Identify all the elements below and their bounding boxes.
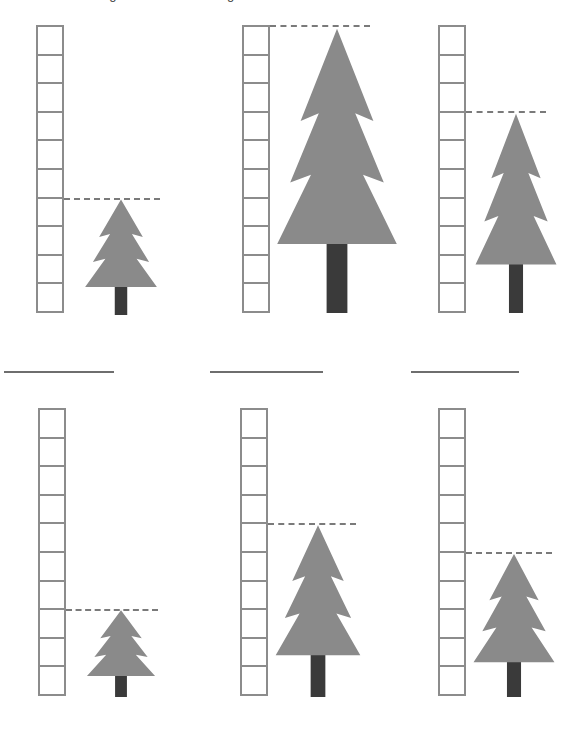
- ruler-unit: [440, 667, 464, 694]
- ruler-unit: [440, 141, 464, 170]
- ruler-unit: [440, 496, 464, 525]
- ruler-unit: [440, 170, 464, 199]
- problem-row-1: [0, 0, 583, 355]
- fir-tree-shape: [472, 111, 560, 313]
- fir-tree-shape: [272, 25, 402, 313]
- ruler-unit: [440, 610, 464, 639]
- ruler-unit: [40, 667, 64, 694]
- ruler-unit: [440, 524, 464, 553]
- fir-tree-icon: [470, 552, 558, 697]
- ruler-unit: [244, 113, 268, 142]
- ruler-unit: [38, 199, 62, 228]
- ruler-unit: [40, 524, 64, 553]
- ruler-unit: [242, 639, 266, 668]
- ruler-unit: [38, 27, 62, 56]
- ruler-unit: [244, 256, 268, 285]
- unit-ruler-icon: [438, 408, 466, 696]
- ruler-unit: [244, 284, 268, 311]
- ruler-unit: [40, 610, 64, 639]
- ruler-unit: [440, 582, 464, 611]
- fir-tree-shape: [272, 523, 364, 697]
- tree-foliage: [474, 554, 555, 662]
- fir-tree-shape: [470, 552, 558, 697]
- ruler-unit: [242, 582, 266, 611]
- ruler-unit: [38, 170, 62, 199]
- ruler-unit: [242, 410, 266, 439]
- ruler-unit: [40, 553, 64, 582]
- ruler-unit: [244, 141, 268, 170]
- ruler-unit: [440, 439, 464, 468]
- tree-foliage: [87, 610, 155, 676]
- ruler-unit: [242, 496, 266, 525]
- ruler-unit: [440, 256, 464, 285]
- tree-trunk: [115, 282, 127, 315]
- fir-tree-icon: [272, 523, 364, 697]
- tree-foliage: [276, 525, 361, 655]
- ruler-unit: [244, 84, 268, 113]
- ruler-unit: [242, 610, 266, 639]
- answer-line-2[interactable]: [210, 371, 323, 373]
- fir-tree-shape: [82, 198, 160, 315]
- ruler-unit: [242, 439, 266, 468]
- ruler-unit: [244, 27, 268, 56]
- ruler-unit: [440, 227, 464, 256]
- ruler-unit: [38, 227, 62, 256]
- ruler-unit: [40, 639, 64, 668]
- ruler-unit: [440, 84, 464, 113]
- unit-ruler-icon: [240, 408, 268, 696]
- ruler-unit: [242, 667, 266, 694]
- unit-ruler-icon: [36, 25, 64, 313]
- worksheet-page: Measure the height of each tree using th…: [0, 0, 583, 739]
- tree-trunk: [507, 656, 521, 697]
- ruler-unit: [38, 113, 62, 142]
- ruler-unit: [38, 284, 62, 311]
- tree-trunk: [311, 648, 326, 697]
- ruler-unit: [440, 639, 464, 668]
- ruler-unit: [244, 199, 268, 228]
- unit-ruler-icon: [38, 408, 66, 696]
- ruler-unit: [244, 170, 268, 199]
- tree-trunk: [115, 672, 127, 697]
- ruler-unit: [40, 496, 64, 525]
- ruler-unit: [38, 141, 62, 170]
- tree-trunk: [327, 232, 348, 313]
- tree-foliage: [277, 29, 397, 244]
- answer-line-1[interactable]: [4, 371, 114, 373]
- ruler-unit: [440, 284, 464, 311]
- fir-tree-shape: [84, 609, 158, 697]
- ruler-unit: [440, 467, 464, 496]
- ruler-unit: [38, 256, 62, 285]
- ruler-unit: [38, 56, 62, 85]
- fir-tree-icon: [472, 111, 560, 313]
- ruler-unit: [242, 524, 266, 553]
- ruler-unit: [440, 199, 464, 228]
- ruler-unit: [40, 439, 64, 468]
- fir-tree-icon: [272, 25, 402, 313]
- answer-line-3[interactable]: [411, 371, 519, 373]
- ruler-unit: [440, 27, 464, 56]
- tree-foliage: [476, 114, 557, 265]
- problem-row-2: [0, 386, 583, 739]
- ruler-unit: [440, 113, 464, 142]
- ruler-unit: [40, 582, 64, 611]
- tree-trunk: [509, 256, 523, 313]
- ruler-unit: [244, 56, 268, 85]
- unit-ruler-icon: [438, 25, 466, 313]
- ruler-unit: [244, 227, 268, 256]
- ruler-unit: [40, 410, 64, 439]
- tree-foliage: [85, 200, 157, 287]
- fir-tree-icon: [82, 198, 160, 315]
- ruler-unit: [242, 553, 266, 582]
- ruler-unit: [242, 467, 266, 496]
- ruler-unit: [440, 410, 464, 439]
- unit-ruler-icon: [242, 25, 270, 313]
- ruler-unit: [440, 56, 464, 85]
- fir-tree-icon: [84, 609, 158, 697]
- ruler-unit: [440, 553, 464, 582]
- ruler-unit: [40, 467, 64, 496]
- ruler-unit: [38, 84, 62, 113]
